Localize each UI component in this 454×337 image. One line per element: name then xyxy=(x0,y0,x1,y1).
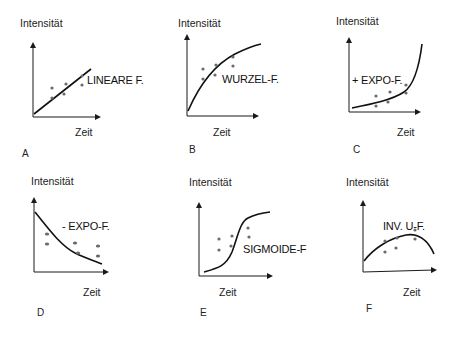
panel-c-xlabel: Zeit xyxy=(397,126,415,138)
panel-d-letter: D xyxy=(37,307,44,319)
panel-b-ylabel: Intensität xyxy=(178,17,221,29)
panel-c-letter: C xyxy=(353,144,360,156)
panel-d-curve-label: - EXPO-F. xyxy=(62,220,110,232)
panel-e-graph xyxy=(199,205,270,276)
data-points xyxy=(45,232,100,257)
panel-a-letter: A xyxy=(22,148,29,160)
panel-e-curve-label: SIGMOIDE-F xyxy=(243,243,306,255)
panel-a-ylabel: Intensität xyxy=(20,17,63,29)
panel-a-curve-label: LINEARE F. xyxy=(87,74,144,86)
inverted-u-curve xyxy=(364,235,434,261)
panel-e-xlabel: Zeit xyxy=(219,286,237,298)
panel-e-letter: E xyxy=(200,307,207,319)
panel-d-ylabel: Intensität xyxy=(31,175,74,187)
x-axis xyxy=(363,270,434,272)
panel-f-letter: F xyxy=(366,303,372,315)
panel-f-xlabel: Zeit xyxy=(403,286,421,298)
panel-b-xlabel: Zeit xyxy=(213,126,231,138)
panel-b-letter: B xyxy=(189,144,196,156)
panel-c-ylabel: Intensität xyxy=(336,15,379,27)
panel-c-curve-label: + EXPO-F. xyxy=(352,74,402,86)
panel-b-curve-label: WURZEL-F. xyxy=(222,73,279,85)
panel-f-curve-label: INV. U-F. xyxy=(383,220,425,232)
panel-d-xlabel: Zeit xyxy=(83,286,101,298)
function-shapes-diagram: Intensität LINEARE F. Zeit A Intensität … xyxy=(0,0,454,337)
panel-d-graph xyxy=(34,200,106,272)
panel-f-graph xyxy=(363,203,434,272)
panel-f-ylabel: Intensität xyxy=(346,176,389,188)
panel-a-xlabel: Zeit xyxy=(75,126,93,138)
sigmoid-curve xyxy=(204,212,270,272)
data-points xyxy=(374,83,407,107)
panel-e-ylabel: Intensität xyxy=(189,176,232,188)
